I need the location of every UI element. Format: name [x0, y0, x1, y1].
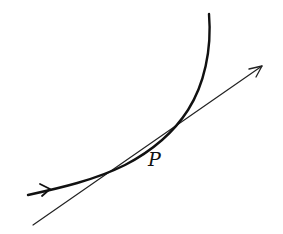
point-label-p: P — [147, 148, 162, 170]
tangent-line — [33, 66, 262, 225]
curve — [28, 14, 210, 196]
curve-tangent-diagram: P — [0, 0, 283, 234]
